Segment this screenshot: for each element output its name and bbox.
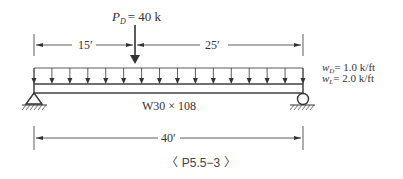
top-dimension <box>34 34 303 56</box>
distributed-load-arrows <box>32 68 306 84</box>
dimension-total-span: 40′ <box>161 131 176 145</box>
beam <box>34 84 303 93</box>
roller-support-right <box>290 94 315 111</box>
beam-diagram: PD= 40 k 15′ 25′ <box>0 0 403 179</box>
distributed-load <box>34 68 303 84</box>
point-load-label: PD= 40 k <box>111 9 162 26</box>
dimension-right-span: 25′ <box>205 38 220 52</box>
dimension-left-span: 15′ <box>78 38 93 52</box>
figure-caption: 〈 P5.5−3 〉 <box>166 156 235 170</box>
pin-support-left <box>22 93 47 110</box>
point-load-arrow <box>130 25 140 64</box>
beam-section-label: W30 × 108 <box>142 99 196 113</box>
